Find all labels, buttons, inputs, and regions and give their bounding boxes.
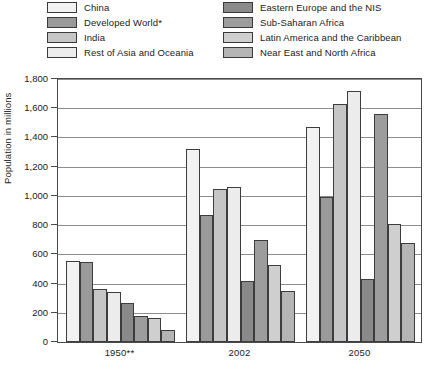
bar — [374, 114, 388, 342]
legend-item[interactable]: Rest of Asia and Oceania — [47, 45, 212, 59]
y-axis-tick-label: 1,600 — [8, 102, 48, 113]
legend-item-label: Rest of Asia and Oceania — [84, 47, 194, 58]
bar — [66, 261, 80, 342]
chart-legend: ChinaDeveloped World*IndiaRest of Asia a… — [0, 0, 428, 64]
bar — [347, 91, 361, 342]
bar — [134, 316, 148, 342]
legend-swatch — [223, 17, 253, 28]
y-axis-tick-label: 800 — [8, 219, 48, 230]
bar — [241, 281, 255, 342]
bar — [306, 127, 320, 342]
legend-item[interactable]: Developed World* — [47, 15, 212, 29]
legend-item[interactable]: Latin America and the Caribbean — [223, 30, 418, 44]
legend-column-right: Eastern Europe and the NISSub-Saharan Af… — [223, 0, 418, 64]
bar — [93, 289, 107, 342]
y-axis-tick-label: 1,200 — [8, 160, 48, 171]
bar — [121, 303, 135, 342]
bar — [227, 187, 241, 342]
bar — [388, 224, 402, 342]
y-axis-tick-label: 1,000 — [8, 189, 48, 200]
x-axis-tick-label: 2002 — [229, 347, 251, 358]
legend-swatch — [47, 32, 77, 43]
bar — [401, 243, 415, 342]
bar — [320, 197, 334, 342]
bar — [200, 215, 214, 342]
legend-item[interactable]: Eastern Europe and the NIS — [223, 0, 418, 14]
bar — [213, 189, 227, 342]
legend-item-label: India — [84, 32, 105, 43]
x-axis-tick-label: 2050 — [349, 347, 371, 358]
legend-item-label: China — [84, 2, 109, 13]
legend-swatch — [47, 47, 77, 58]
y-axis-tick-label: 200 — [8, 306, 48, 317]
population-bar-chart: ChinaDeveloped World*IndiaRest of Asia a… — [0, 0, 428, 370]
legend-item-label: Near East and North Africa — [260, 47, 376, 58]
legend-item[interactable]: Sub-Saharan Africa — [223, 15, 418, 29]
bar — [268, 265, 282, 342]
bar — [281, 291, 295, 342]
legend-item-label: Latin America and the Caribbean — [260, 32, 401, 43]
legend-item[interactable]: China — [47, 0, 212, 14]
legend-item[interactable]: Near East and North Africa — [223, 45, 418, 59]
y-axis-tick-label: 1,800 — [8, 73, 48, 84]
y-axis-tick-label: 1,400 — [8, 131, 48, 142]
legend-item-label: Developed World* — [84, 17, 162, 28]
bars-layer — [58, 79, 421, 342]
plot-wrapper: Population in millions 02004006008001,00… — [0, 64, 428, 370]
legend-item[interactable]: India — [47, 30, 212, 44]
bar — [254, 240, 268, 342]
bar — [107, 292, 121, 342]
y-axis-tick-label: 600 — [8, 248, 48, 259]
bar — [148, 318, 162, 342]
legend-swatch — [223, 47, 253, 58]
legend-swatch — [47, 2, 77, 13]
bar — [80, 262, 94, 342]
bar — [361, 279, 375, 342]
legend-swatch — [223, 2, 253, 13]
bar — [186, 149, 200, 342]
bar — [161, 330, 175, 342]
x-axis-tick-label: 1950** — [105, 347, 135, 358]
legend-item-label: Eastern Europe and the NIS — [260, 2, 381, 13]
bar — [333, 104, 347, 342]
legend-column-left: ChinaDeveloped World*IndiaRest of Asia a… — [47, 0, 212, 64]
legend-item-label: Sub-Saharan Africa — [260, 17, 344, 28]
y-axis-tick-label: 0 — [8, 336, 48, 347]
plot-area — [57, 78, 422, 343]
legend-swatch — [223, 32, 253, 43]
y-axis-tick-label: 400 — [8, 277, 48, 288]
legend-swatch — [47, 17, 77, 28]
